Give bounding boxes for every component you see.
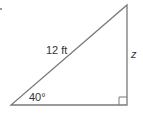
angle-label: 40°: [29, 91, 46, 103]
right-triangle: [11, 5, 127, 105]
right-angle-marker: [119, 97, 127, 105]
hypotenuse-label: 12 ft: [46, 44, 67, 56]
triangle-diagram: 12 ft 40° z: [0, 0, 143, 115]
side-z-label: z: [130, 48, 137, 60]
bullet-mark: [0, 8, 2, 10]
